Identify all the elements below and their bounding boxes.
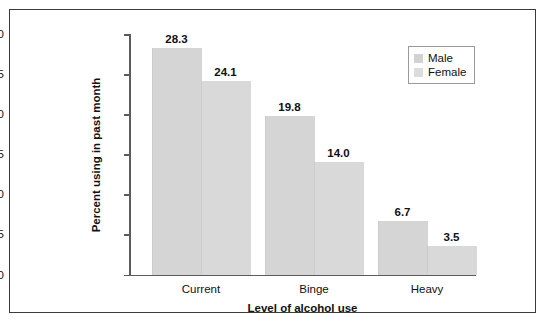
bar-female-current xyxy=(201,81,251,274)
bar-value-label: 24.1 xyxy=(201,66,250,78)
bar-value-label: 6.7 xyxy=(378,206,427,218)
category-label-heavy: Heavy xyxy=(378,283,476,295)
bar-value-label: 3.5 xyxy=(427,231,476,243)
category-label-binge: Binge xyxy=(265,283,363,295)
bar-value-label: 28.3 xyxy=(152,33,201,45)
y-axis-tick xyxy=(124,114,129,116)
y-axis-tick xyxy=(124,74,129,76)
bar-male-binge xyxy=(265,116,315,275)
bar-female-binge xyxy=(314,162,364,274)
y-axis-tick xyxy=(124,275,129,277)
bar-value-label: 19.8 xyxy=(265,101,314,113)
y-axis-tick-label: 15 xyxy=(0,148,4,160)
y-axis-tick-label: 20 xyxy=(0,108,4,120)
y-axis-title-text: Percent using in past month xyxy=(90,78,102,233)
legend-label: Male xyxy=(428,52,453,64)
y-axis-tick xyxy=(124,34,129,36)
x-axis-title: Level of alcohol use xyxy=(129,302,476,314)
y-axis-tick-label: 5 xyxy=(0,228,4,240)
y-axis-tick-label: 10 xyxy=(0,188,4,200)
chart-figure-frame: Percent using in past month 051015202530… xyxy=(9,9,536,313)
legend-swatch-female xyxy=(414,68,423,77)
x-axis-line xyxy=(129,275,476,277)
legend-item-female: Female xyxy=(414,65,466,79)
y-axis-tick-label: 25 xyxy=(0,68,4,80)
bar-female-heavy xyxy=(427,246,477,274)
category-label-current: Current xyxy=(152,283,250,295)
legend-label: Female xyxy=(428,66,466,78)
y-axis-tick xyxy=(124,194,129,196)
bar-male-heavy xyxy=(378,221,428,275)
y-axis-line xyxy=(129,34,131,276)
y-axis-tick-label: 0 xyxy=(0,269,4,281)
y-axis-tick-labels: 051015202530 xyxy=(0,10,4,252)
legend-item-male: Male xyxy=(414,51,466,65)
bar-male-current xyxy=(152,48,202,275)
y-axis-title: Percent using in past month xyxy=(88,34,104,276)
y-axis-tick xyxy=(124,234,129,236)
bar-value-label: 14.0 xyxy=(314,147,363,159)
legend-swatch-male xyxy=(414,54,423,63)
y-axis-tick xyxy=(124,154,129,156)
y-axis-tick-label: 30 xyxy=(0,28,4,40)
chart-legend: MaleFemale xyxy=(408,46,475,84)
